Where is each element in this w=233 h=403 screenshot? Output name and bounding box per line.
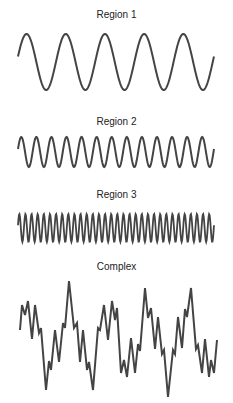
wave-region-2 <box>18 137 214 167</box>
wave-region-1 <box>18 34 214 90</box>
wave-region-3 <box>18 214 214 242</box>
waveform-diagram <box>0 0 233 403</box>
wave-complex <box>20 281 217 397</box>
